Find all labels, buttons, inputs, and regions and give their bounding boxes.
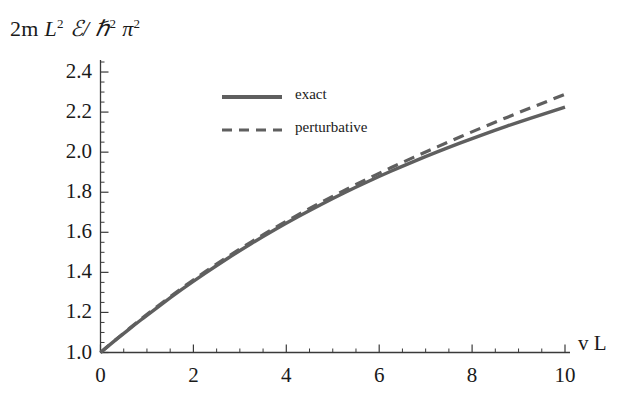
y-tick-label: 2.4 xyxy=(30,59,92,84)
y-axis-label-pi: π xyxy=(122,16,133,41)
y-tick-label: 1.6 xyxy=(30,219,92,244)
x-tick-label: 8 xyxy=(442,363,502,388)
legend-label-exact: exact xyxy=(295,86,327,103)
chart-figure: 2m L2 ℰ/ ℏ2 π2 exactperturbative1.01.21.… xyxy=(0,0,625,403)
y-tick-label: 1.0 xyxy=(30,340,92,365)
y-tick-label: 2.0 xyxy=(30,139,92,164)
y-axis-label-prefix: 2m xyxy=(10,16,45,41)
y-axis-label: 2m L2 ℰ/ ℏ2 π2 xyxy=(10,16,140,42)
axis-ticks xyxy=(101,62,566,353)
axis-lines xyxy=(101,60,571,353)
x-axis-label: v L xyxy=(578,331,607,356)
x-tick-label: 2 xyxy=(163,363,223,388)
y-tick-label: 1.2 xyxy=(30,299,92,324)
y-axis-label-hbar-exponent: 2 xyxy=(110,16,117,31)
x-tick-label: 6 xyxy=(349,363,409,388)
x-tick-label: 0 xyxy=(71,363,131,388)
legend-swatches xyxy=(222,97,282,130)
y-axis-label-pi-exponent: 2 xyxy=(133,16,140,31)
y-tick-label: 1.8 xyxy=(30,179,92,204)
x-tick-label: 10 xyxy=(535,363,595,388)
y-tick-label: 2.2 xyxy=(30,99,92,124)
y-axis-label-hbar: ℏ xyxy=(95,16,109,41)
x-tick-label: 4 xyxy=(256,363,316,388)
plot-canvas xyxy=(0,0,625,403)
y-axis-label-L-exponent: 2 xyxy=(57,16,64,31)
y-axis-label-L: L xyxy=(45,16,58,41)
series-line-exact xyxy=(101,107,566,352)
y-tick-label: 1.4 xyxy=(30,259,92,284)
y-axis-label-script-E: ℰ/ xyxy=(70,16,90,41)
legend-label-perturbative: perturbative xyxy=(295,119,367,136)
